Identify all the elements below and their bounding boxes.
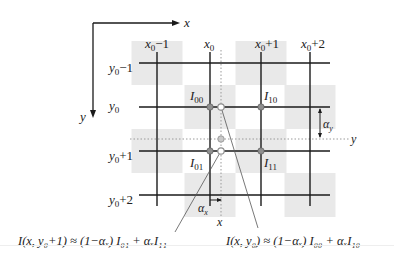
bilinear-interpolation-diagram: x y x0−1 x0 x0+1 x0+2 y0−1 y0 y0+1 y0+2 … [0, 0, 394, 261]
column-label: x0−1 [144, 36, 169, 53]
interp-dot-bottom [218, 148, 224, 154]
pixel-dot-i11 [258, 148, 264, 154]
sample-y-label: y [350, 132, 357, 146]
pixel-dot-i00 [207, 104, 213, 110]
column-label: x0 [203, 36, 215, 53]
row-labels: y0−1 y0 y0+1 y0+2 [107, 60, 133, 209]
interp-dot-top [218, 104, 224, 110]
pixel-label-i10: I10 [263, 88, 278, 105]
sample-dot [218, 136, 224, 142]
row-label: y0−1 [107, 60, 133, 77]
x-axis-arrow-icon [172, 20, 180, 26]
row-label: y0 [107, 98, 120, 115]
column-label: x0+2 [300, 36, 325, 53]
pixel-label-i01: I01 [189, 155, 203, 172]
pixel-dot-i01 [207, 148, 213, 154]
row-label: y0+1 [107, 148, 133, 165]
arrow-down-icon [318, 133, 322, 138]
pixel-dot-i10 [258, 104, 264, 110]
pixel-checkerboard [132, 41, 336, 217]
bottom-divider [0, 245, 394, 246]
x-axis-label: x [183, 15, 190, 30]
row-label: y0+2 [107, 192, 133, 209]
sample-x-label: x [216, 215, 223, 229]
y-axis-label: y [78, 109, 86, 124]
column-label: x0+1 [254, 36, 279, 53]
y-axis-arrow-icon [90, 110, 96, 118]
